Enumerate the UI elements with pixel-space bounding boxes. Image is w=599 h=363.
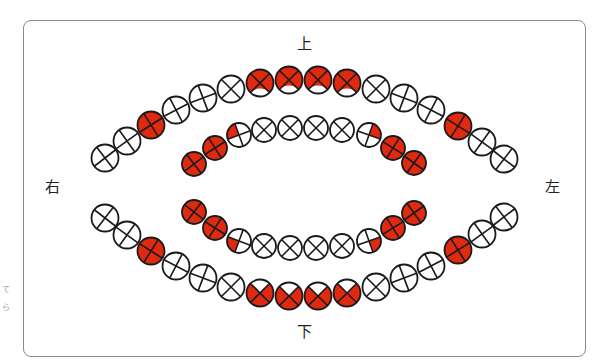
- bead-full: [445, 237, 472, 264]
- bead-empty: [190, 265, 217, 292]
- bead-full: [402, 201, 426, 225]
- bead-empty: [363, 274, 390, 301]
- bead-br: [357, 229, 381, 253]
- bead-empty: [218, 76, 245, 103]
- bead-bottom3: [246, 280, 273, 307]
- bead-empty: [252, 118, 276, 142]
- bead-bottom3: [304, 283, 331, 310]
- bead-full: [182, 152, 206, 176]
- bead-bl: [227, 229, 251, 253]
- bead-empty: [391, 265, 418, 292]
- bead-empty: [163, 97, 190, 124]
- bead-top3: [334, 70, 361, 97]
- bead-full: [182, 200, 206, 224]
- bead-empty: [469, 221, 496, 248]
- bead-tr: [357, 123, 381, 147]
- bead-full: [381, 216, 405, 240]
- bead-full: [402, 151, 426, 175]
- bead-arcs-diagram: [0, 0, 599, 363]
- inner-lower-arc: [182, 200, 426, 260]
- bead-full: [445, 113, 472, 140]
- bead-empty: [304, 116, 328, 140]
- bead-top3: [304, 66, 331, 93]
- bead-empty: [491, 204, 518, 231]
- bead-empty: [252, 234, 276, 258]
- bead-empty: [330, 118, 354, 142]
- bead-empty: [163, 253, 190, 280]
- bead-empty: [278, 236, 302, 260]
- bead-bottom3: [334, 280, 361, 307]
- bead-empty: [418, 97, 445, 124]
- outer-upper-arc: [92, 66, 518, 172]
- bead-empty: [304, 236, 328, 260]
- bead-empty: [418, 253, 445, 280]
- bead-empty: [114, 128, 141, 155]
- bead-full: [381, 136, 405, 160]
- bead-empty: [491, 146, 518, 173]
- bead-empty: [330, 234, 354, 258]
- inner-upper-arc: [182, 116, 426, 176]
- outer-lower-arc: [92, 204, 518, 310]
- bead-full: [203, 216, 227, 240]
- bead-full: [138, 112, 165, 139]
- bead-empty: [92, 205, 119, 232]
- bead-empty: [469, 129, 496, 156]
- bead-empty: [278, 116, 302, 140]
- bead-tl: [227, 123, 251, 147]
- bead-empty: [391, 85, 418, 112]
- bead-bottom3: [276, 283, 303, 310]
- bead-full: [203, 136, 227, 160]
- bead-empty: [363, 76, 390, 103]
- bead-empty: [92, 145, 119, 172]
- bead-empty: [218, 274, 245, 301]
- bead-top3: [276, 66, 303, 93]
- bead-top3: [247, 70, 274, 97]
- bead-empty: [114, 222, 141, 249]
- bead-empty: [190, 85, 217, 112]
- bead-full: [138, 238, 165, 265]
